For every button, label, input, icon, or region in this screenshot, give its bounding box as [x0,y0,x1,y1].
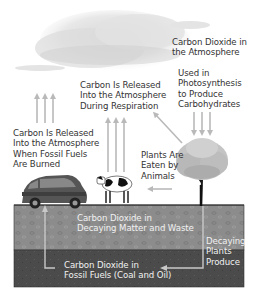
arrows-photosynthesis [194,112,210,133]
label-co2-atmosphere: Carbon Dioxide in the Atmosphere [172,37,247,58]
arrow-tree-respiration [155,114,182,143]
label-respiration: Carbon Is Released Into the Atmosphere D… [80,80,166,111]
cow [97,176,132,203]
label-fossil-fuels: Carbon Dioxide in Fossil Fuels (Coal and… [64,260,171,281]
tree [176,138,228,206]
label-decaying-matter: Carbon Dioxide in Decaying Matter and Wa… [77,213,194,234]
label-plants-eaten: Plants Are Eaten by Animals [141,150,183,181]
car [22,175,87,209]
label-fossil-fuels-burned: Carbon Is Released Into the Atmosphere W… [13,128,99,170]
carbon-cycle-diagram: Carbon Dioxide in the Atmosphere Used in… [0,0,259,293]
arrows-fossil-fuel-emission [37,96,53,123]
label-decaying-plants: Decaying Plants Produce [206,236,245,267]
label-photosynthesis: Used in Photosynthesis to Produce Carboh… [178,68,242,110]
arrows-respiration [108,120,124,172]
